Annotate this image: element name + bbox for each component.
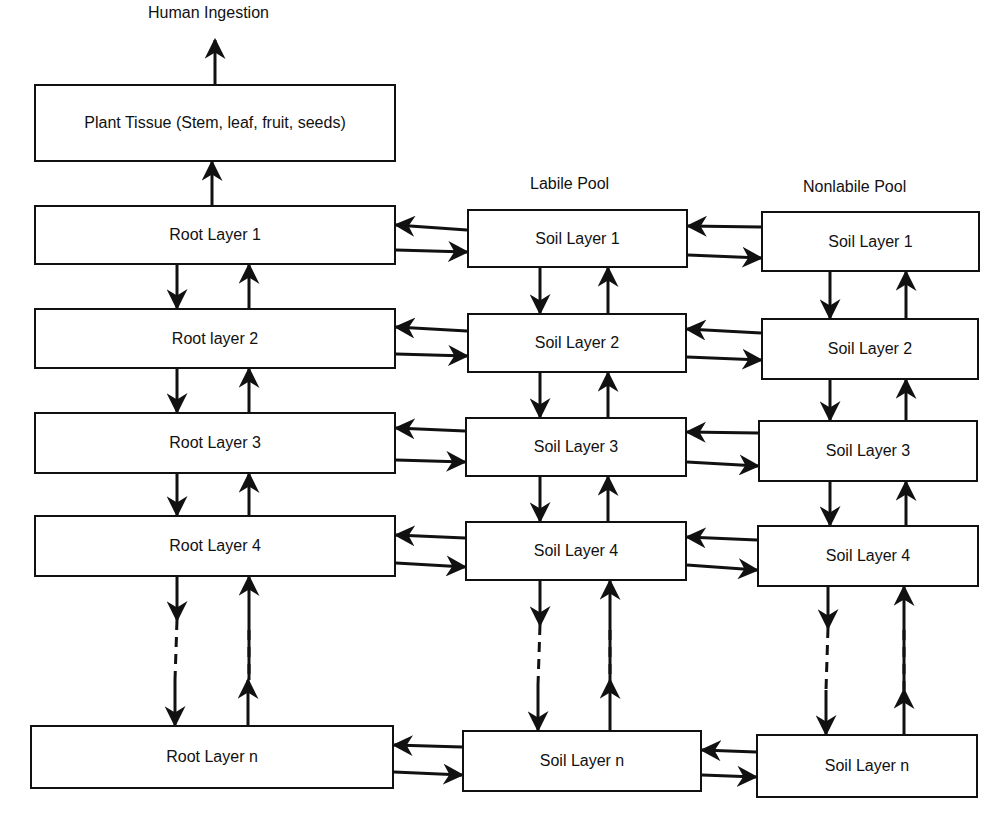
labile-soil-layer-n-label: Soil Layer n (540, 752, 625, 770)
root-layer-4-label: Root Layer 4 (169, 537, 261, 555)
nonlabile-soil-layer-4-box: Soil Layer 4 (757, 525, 979, 587)
labile-soil-layer-1-box: Soil Layer 1 (467, 209, 688, 268)
labile-soil-layer-n-box: Soil Layer n (462, 730, 702, 792)
nonlabile-soil-layer-3-box: Soil Layer 3 (758, 420, 978, 482)
nonlabile-soil-layer-4-label: Soil Layer 4 (826, 547, 911, 565)
nonlabile-soil-layer-2-box: Soil Layer 2 (761, 318, 979, 380)
nonlabile-soil-layer-2-label: Soil Layer 2 (828, 340, 913, 358)
root-layer-2-box: Root layer 2 (34, 308, 396, 369)
labile-soil-layer-2-label: Soil Layer 2 (535, 334, 620, 352)
labile-soil-layer-4-box: Soil Layer 4 (465, 521, 687, 581)
labile-pool-header: Labile Pool (530, 175, 609, 193)
nonlabile-soil-layer-1-box: Soil Layer 1 (761, 211, 980, 272)
plant-tissue-label: Plant Tissue (Stem, leaf, fruit, seeds) (84, 114, 345, 132)
nonlabile-pool-header: Nonlabile Pool (803, 178, 906, 196)
root-layer-3-box: Root Layer 3 (34, 412, 396, 474)
plant-tissue-box: Plant Tissue (Stem, leaf, fruit, seeds) (34, 84, 396, 162)
nonlabile-soil-layer-3-label: Soil Layer 3 (826, 442, 911, 460)
nonlabile-soil-layer-n-box: Soil Layer n (756, 734, 978, 798)
root-layer-4-box: Root Layer 4 (34, 515, 396, 577)
root-layer-1-label: Root Layer 1 (169, 226, 261, 244)
nonlabile-soil-layer-1-label: Soil Layer 1 (828, 233, 913, 251)
root-layer-3-label: Root Layer 3 (169, 434, 261, 452)
root-layer-1-box: Root Layer 1 (34, 205, 396, 265)
labile-soil-layer-2-box: Soil Layer 2 (467, 313, 687, 373)
labile-soil-layer-4-label: Soil Layer 4 (534, 542, 619, 560)
root-layer-2-label: Root layer 2 (172, 330, 258, 348)
human-ingestion-label: Human Ingestion (148, 4, 269, 22)
root-layer-n-box: Root Layer n (30, 725, 394, 789)
labile-soil-layer-1-label: Soil Layer 1 (535, 230, 620, 248)
labile-soil-layer-3-label: Soil Layer 3 (534, 438, 619, 456)
root-layer-n-label: Root Layer n (166, 748, 258, 766)
nonlabile-soil-layer-n-label: Soil Layer n (825, 757, 910, 775)
labile-soil-layer-3-box: Soil Layer 3 (465, 417, 687, 477)
